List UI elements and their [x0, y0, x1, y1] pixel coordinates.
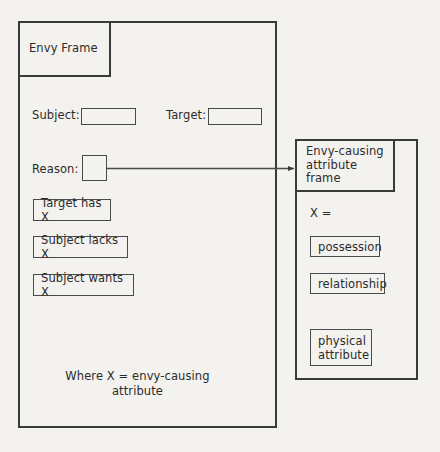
- condition-label: Subject lacks X: [34, 233, 127, 261]
- target-slot-box[interactable]: [208, 108, 262, 125]
- condition-box-subject-lacks-x: Subject lacks X: [33, 236, 128, 258]
- subject-slot-label: Subject:: [32, 108, 80, 122]
- diagram-canvas: Envy Frame Subject: Target: Reason: Targ…: [0, 0, 440, 452]
- subject-slot-box[interactable]: [81, 108, 136, 125]
- attribute-value-label: relationship: [311, 277, 387, 291]
- condition-label: Target has X: [34, 196, 110, 224]
- diagram-caption: Where X = envy-causing attribute: [40, 369, 235, 399]
- attribute-value-label: physical attribute: [311, 334, 369, 362]
- condition-label: Subject wants X: [34, 271, 133, 299]
- condition-box-subject-wants-x: Subject wants X: [33, 274, 134, 296]
- condition-box-target-has-x: Target has X: [33, 199, 111, 221]
- variable-label: X =: [310, 206, 331, 220]
- envy-frame-title-box: Envy Frame: [18, 21, 111, 77]
- envy-frame-title-label: Envy Frame: [20, 42, 98, 56]
- reason-slot-box[interactable]: [82, 155, 107, 181]
- attribute-value-label: possession: [311, 240, 382, 254]
- envy-frame: [18, 21, 277, 428]
- reason-slot-label: Reason:: [32, 162, 79, 176]
- attribute-value-relationship: relationship: [310, 273, 385, 294]
- attribute-value-possession: possession: [310, 236, 380, 257]
- attribute-frame-title-box: Envy-causing attribute frame: [295, 139, 395, 192]
- attribute-frame-title-label: Envy-causing attribute frame: [297, 145, 384, 186]
- attribute-value-physical-attribute: physical attribute: [310, 329, 372, 366]
- target-slot-label: Target:: [166, 108, 206, 122]
